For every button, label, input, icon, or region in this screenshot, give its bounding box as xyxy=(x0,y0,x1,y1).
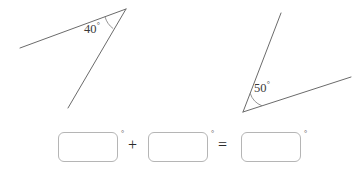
addend-1-group: ° xyxy=(58,132,118,162)
worksheet-canvas: 40° 50° ° + ° = ° xyxy=(0,0,363,172)
degree-symbol-icon: ° xyxy=(267,80,270,89)
left-angle-figure xyxy=(20,9,126,108)
equation-row: ° + ° = ° xyxy=(0,128,363,172)
right-angle-ray-upper xyxy=(243,13,281,112)
degree-symbol-icon: ° xyxy=(304,129,307,138)
right-angle-measure-label: 50° xyxy=(254,81,270,96)
addend-2-input[interactable] xyxy=(148,132,208,162)
sum-group: ° xyxy=(241,132,301,162)
addend-1-input[interactable] xyxy=(58,132,118,162)
left-angle-ray-upper xyxy=(20,9,126,48)
right-angle-figure xyxy=(243,13,351,112)
addend-2-group: ° xyxy=(148,132,208,162)
degree-symbol-icon: ° xyxy=(211,129,214,138)
angle-figures xyxy=(0,0,363,125)
plus-operator: + xyxy=(128,136,137,154)
degree-symbol-icon: ° xyxy=(121,129,124,138)
left-angle-arc xyxy=(105,17,113,29)
equals-operator: = xyxy=(218,136,227,154)
left-angle-measure-label: 40° xyxy=(84,22,100,37)
right-angle-measure-value: 50 xyxy=(254,81,267,95)
left-angle-measure-value: 40 xyxy=(84,22,97,36)
sum-input[interactable] xyxy=(241,132,301,162)
degree-symbol-icon: ° xyxy=(97,21,100,30)
